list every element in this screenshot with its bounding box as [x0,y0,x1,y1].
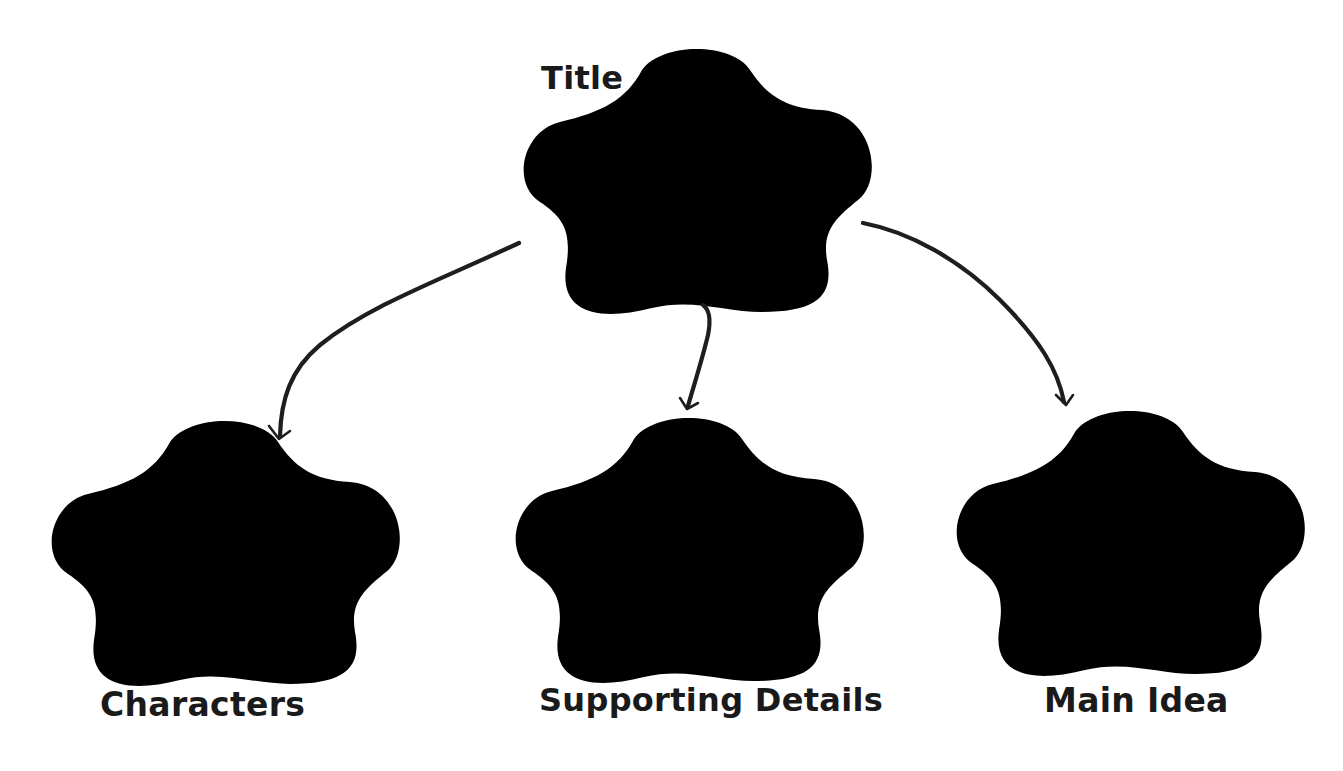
cloud-supporting-details [516,418,864,683]
diagram-canvas [0,0,1343,771]
node-label-main-idea: Main Idea [1044,684,1229,717]
cloud-main-idea [957,411,1305,676]
arrow-to-main-idea-icon [863,223,1073,405]
cloud-characters [52,421,400,686]
node-label-characters: Characters [100,688,305,721]
graphic-organizer: Title Characters Supporting Details Main… [0,0,1343,771]
node-label-supporting-details: Supporting Details [539,684,883,716]
arrow-to-characters-icon [269,243,519,439]
node-label-title: Title [541,62,623,94]
arrow-to-supporting-details-icon [680,305,710,409]
